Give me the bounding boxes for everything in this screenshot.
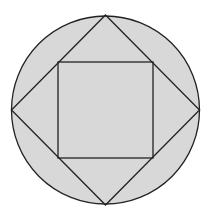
outer-circle [12,16,200,204]
geometry-diagram [0,0,211,217]
